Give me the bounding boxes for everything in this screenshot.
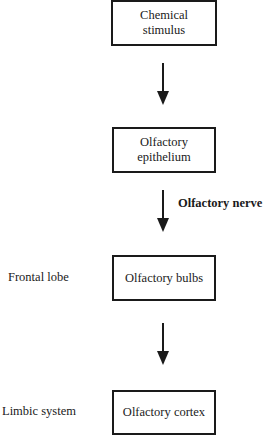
node-chemical-stimulus-line1: Chemical [140, 8, 188, 23]
edge-label-olfactory-nerve: Olfactory nerve [178, 196, 262, 211]
node-olfactory-epithelium-line1: Olfactory [137, 135, 190, 150]
node-olfactory-bulbs: Olfactory bulbs [112, 255, 216, 301]
node-chemical-stimulus: Chemical stimulus [111, 0, 217, 46]
node-olfactory-bulbs-label: Olfactory bulbs [125, 271, 203, 286]
arrow-down-icon [156, 190, 170, 232]
node-chemical-stimulus-line2: stimulus [140, 23, 188, 38]
side-label-limbic-system: Limbic system [2, 404, 76, 419]
arrow-down-icon [156, 323, 170, 365]
node-olfactory-cortex-label: Olfactory cortex [123, 405, 205, 420]
arrow-down-icon [156, 63, 170, 105]
node-olfactory-cortex: Olfactory cortex [112, 390, 216, 435]
side-label-frontal-lobe: Frontal lobe [8, 270, 69, 285]
node-olfactory-epithelium-line2: epithelium [137, 150, 190, 165]
node-olfactory-epithelium: Olfactory epithelium [112, 127, 216, 173]
